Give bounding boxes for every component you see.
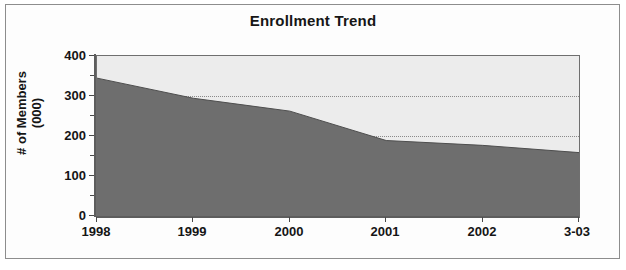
x-axis-line <box>96 216 579 218</box>
x-axis-tick-2002 <box>482 217 483 222</box>
y-tick-label-100: 100 <box>46 168 86 183</box>
y-tick-label-0: 0 <box>46 208 86 223</box>
y-axis-tick-350 <box>90 75 94 76</box>
x-tick-label-2002: 2002 <box>447 224 517 239</box>
y-tick-label-200: 200 <box>46 128 86 143</box>
area-series-enrollment <box>97 56 579 217</box>
y-tick-label-300: 300 <box>46 88 86 103</box>
chart-title: Enrollment Trend <box>0 12 626 29</box>
y-axis-tick-100 <box>89 175 94 176</box>
y-axis-tick-0 <box>89 215 94 216</box>
x-axis-tick-labels: 1998 1999 2000 2001 2002 3-03 <box>0 224 626 244</box>
y-axis-tick-150 <box>90 155 94 156</box>
x-tick-label-2001: 2001 <box>350 224 420 239</box>
x-tick-label-2000: 2000 <box>254 224 324 239</box>
x-axis-tick-2000 <box>289 217 290 222</box>
y-axis-title-line1: # of Members <box>14 71 29 155</box>
x-tick-label-1999: 1999 <box>157 224 227 239</box>
x-axis-tick-3-03 <box>578 217 579 222</box>
x-axis-tick-2001 <box>385 217 386 222</box>
y-axis-tick-400 <box>89 55 94 56</box>
y-axis-tick-200 <box>89 135 94 136</box>
y-axis-tick-50 <box>90 195 94 196</box>
x-axis-tick-1999 <box>192 217 193 222</box>
x-tick-label-3-03: 3-03 <box>542 224 612 239</box>
plot-area <box>96 55 580 218</box>
y-tick-label-400: 400 <box>46 48 86 63</box>
y-axis-tick-300 <box>89 95 94 96</box>
y-axis-tick-250 <box>90 115 94 116</box>
x-tick-label-1998: 1998 <box>61 224 131 239</box>
x-axis-tick-1998 <box>96 217 97 222</box>
chart-figure: Enrollment Trend # of Members (000) 400 … <box>0 0 626 270</box>
